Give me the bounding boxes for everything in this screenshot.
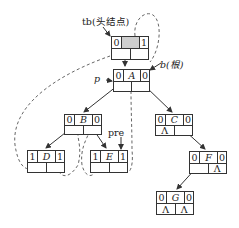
A-ltag: 0	[114, 70, 123, 81]
C-data: C	[165, 115, 183, 125]
B-rchild	[83, 126, 102, 136]
head-rchild	[130, 49, 149, 60]
B-lchild	[65, 126, 83, 136]
A-rchild	[131, 82, 149, 93]
G-ltag: 0	[157, 192, 166, 203]
B-data: B	[74, 115, 92, 125]
node-D: 1 D 1	[27, 150, 65, 173]
G-rtag: 0	[184, 192, 193, 203]
node-A: 0 A 0	[113, 69, 150, 92]
pointer-tb	[103, 27, 110, 36]
G-data: G	[166, 192, 184, 203]
D-data: D	[37, 151, 55, 162]
C-lchild: Λ	[156, 126, 174, 136]
E-rtag: 1	[118, 151, 127, 162]
D-lchild	[28, 163, 46, 174]
head-lchild	[112, 49, 130, 60]
F-rtag: 0	[217, 152, 226, 163]
G-lchild: Λ	[157, 204, 175, 215]
E-ltag: 1	[91, 151, 100, 162]
D-rtag: 1	[55, 151, 64, 162]
node-C: 0 C 0 Λ	[155, 114, 193, 136]
node-G: 0 G 0 Λ Λ	[156, 191, 194, 215]
threaded-binary-tree-diagram: 0 1 0 A 0 0 B 0	[0, 0, 239, 228]
head-node: 0 1	[111, 36, 149, 60]
head-pointer-label: tb(头结点)	[82, 14, 129, 28]
head-rtag: 1	[139, 37, 148, 48]
pre-pointer-label: pre	[108, 127, 124, 138]
E-rchild	[109, 163, 128, 174]
edges-and-threads	[0, 0, 239, 228]
F-data: F	[199, 152, 217, 163]
root-pointer-label: b(根)	[160, 57, 184, 71]
E-lchild	[91, 163, 109, 174]
D-rchild	[46, 163, 65, 174]
G-rchild: Λ	[175, 204, 194, 215]
head-ltag: 0	[112, 37, 121, 48]
node-B: 0 B 0	[64, 114, 102, 135]
F-rchild: Λ	[208, 164, 227, 175]
F-lchild	[190, 164, 208, 175]
E-data: E	[100, 151, 118, 162]
C-rtag: 0	[183, 115, 192, 125]
head-data	[121, 37, 139, 48]
A-lchild	[114, 82, 131, 93]
A-rtag: 0	[140, 70, 149, 81]
A-data: A	[123, 70, 140, 81]
B-ltag: 0	[65, 115, 74, 125]
p-pointer-label: p	[94, 73, 100, 84]
D-ltag: 1	[28, 151, 37, 162]
F-ltag: 0	[190, 152, 199, 163]
node-F: 0 F 0 Λ	[189, 151, 227, 174]
C-rchild	[174, 126, 193, 136]
pointer-p	[106, 80, 112, 81]
C-ltag: 0	[156, 115, 165, 125]
node-E: 1 E 1	[90, 150, 128, 173]
B-rtag: 0	[92, 115, 101, 125]
